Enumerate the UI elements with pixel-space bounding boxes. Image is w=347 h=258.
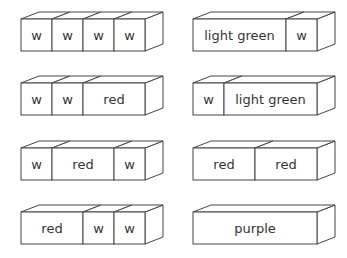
rod-label: red bbox=[72, 157, 93, 172]
rod-train: wwred bbox=[21, 76, 163, 115]
rod-label: w bbox=[203, 92, 214, 107]
rod-label: w bbox=[124, 28, 135, 43]
rod-top-face bbox=[224, 76, 335, 83]
rod-label: w bbox=[124, 157, 135, 172]
rod-label: w bbox=[31, 92, 42, 107]
rod-label: w bbox=[31, 28, 42, 43]
rod-label: w bbox=[62, 28, 73, 43]
rod-train: redww bbox=[21, 205, 163, 244]
rod-label: red bbox=[41, 221, 62, 236]
rod-train: wlight green bbox=[193, 76, 335, 115]
rod-train: redred bbox=[193, 141, 335, 180]
rod-train: wwww bbox=[21, 12, 163, 51]
rod-label: w bbox=[124, 221, 135, 236]
rod-label: purple bbox=[234, 221, 276, 236]
rod-train: wredw bbox=[21, 141, 163, 180]
rod-train: light greenw bbox=[193, 12, 335, 51]
rod-trains-diagram: wwwwlight greenwwwredwlight greenwredwre… bbox=[0, 0, 347, 258]
rod-train: purple bbox=[193, 205, 335, 244]
rod-label: w bbox=[296, 28, 307, 43]
rod-label: red bbox=[213, 157, 234, 172]
rod-label: red bbox=[103, 92, 124, 107]
rod-label: light green bbox=[204, 28, 275, 43]
rod-label: w bbox=[62, 92, 73, 107]
rod-label: red bbox=[275, 157, 296, 172]
rod-top-face bbox=[193, 205, 335, 212]
rod-label: light green bbox=[235, 92, 306, 107]
rod-label: w bbox=[31, 157, 42, 172]
rod-label: w bbox=[93, 28, 104, 43]
rod-label: w bbox=[93, 221, 104, 236]
